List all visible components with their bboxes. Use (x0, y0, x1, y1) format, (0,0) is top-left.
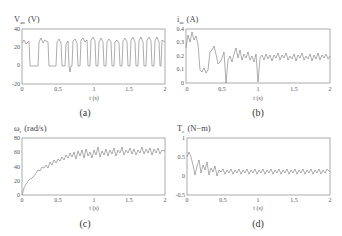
panel-d-caption: (d) (252, 218, 264, 230)
svg-text:2: 2 (329, 197, 332, 203)
panel-d-axes (187, 138, 330, 195)
panel-c-ylabel: ωr(rad/s) (14, 123, 47, 134)
panel-c: ωr(rad/s) 806040200 00.511.52 t (s) (c) (14, 123, 167, 230)
panel-a-ylabel: Van(V) (14, 14, 40, 25)
svg-text:20: 20 (14, 178, 20, 184)
panel-a: Van(V) 40200-20 00.511.52 t (s) (a) (12, 14, 167, 119)
panel-c-series (22, 147, 165, 195)
svg-text:1: 1 (93, 197, 96, 203)
svg-text:1.5: 1.5 (125, 197, 133, 203)
panel-d-ylabel: Te(N−m) (177, 123, 211, 134)
svg-text:0.5: 0.5 (178, 154, 186, 160)
svg-text:40: 40 (14, 26, 20, 32)
svg-text:2: 2 (164, 86, 167, 92)
panel-c-caption: (c) (79, 218, 90, 230)
svg-text:0.2: 0.2 (177, 53, 185, 59)
figure: Van(V) 40200-20 00.511.52 t (s) (a) ias(… (0, 0, 342, 236)
panel-d-yticks: 10.50-0.5 (176, 135, 186, 198)
panel-b-caption: (b) (252, 107, 264, 119)
panel-a-xticks: 00.511.52 (21, 86, 167, 92)
svg-text:0.5: 0.5 (54, 86, 62, 92)
svg-text:0: 0 (182, 173, 185, 179)
panel-b-xlabel: t (s) (253, 95, 263, 102)
svg-text:1: 1 (257, 86, 260, 92)
svg-text:1.5: 1.5 (290, 86, 298, 92)
svg-text:2: 2 (329, 86, 332, 92)
svg-text:1: 1 (182, 135, 185, 141)
svg-text:2: 2 (164, 197, 167, 203)
panel-b-axes (186, 29, 330, 83)
svg-text:0: 0 (21, 86, 24, 92)
panel-d-xticks: 00.511.52 (186, 197, 332, 203)
svg-text:1.5: 1.5 (290, 197, 298, 203)
panel-d-xlabel: t (s) (253, 205, 263, 212)
panel-c-yticks: 806040200 (14, 135, 20, 198)
panel-c-axes (22, 138, 165, 195)
svg-text:0.1: 0.1 (177, 66, 185, 72)
svg-text:40: 40 (14, 164, 20, 170)
panel-c-xlabel: t (s) (89, 205, 99, 212)
svg-text:1.5: 1.5 (125, 86, 133, 92)
svg-text:-20: -20 (12, 81, 20, 87)
panel-b-yticks: 0.40.30.20.10 (177, 26, 185, 86)
svg-text:20: 20 (14, 44, 20, 50)
panel-a-xlabel: t (s) (89, 95, 99, 102)
panel-d-series (187, 152, 330, 176)
panel-d: Te(N−m) 10.50-0.5 00.511.52 t (s) (d) (176, 123, 332, 230)
svg-text:0.4: 0.4 (177, 26, 185, 32)
panel-b-ylabel: ias(A) (177, 14, 199, 25)
svg-text:0.5: 0.5 (54, 197, 62, 203)
panel-b: ias(A) 0.40.30.20.10 00.511.52 t (s) (b) (177, 14, 332, 119)
panel-b-xticks: 00.511.52 (186, 86, 332, 92)
svg-text:80: 80 (14, 135, 20, 141)
svg-text:1: 1 (257, 197, 260, 203)
svg-text:0: 0 (181, 80, 184, 86)
svg-text:0.5: 0.5 (219, 197, 227, 203)
svg-text:0: 0 (186, 197, 189, 203)
svg-text:0: 0 (186, 86, 189, 92)
svg-text:0.3: 0.3 (177, 39, 185, 45)
svg-text:60: 60 (14, 149, 20, 155)
svg-text:1: 1 (93, 86, 96, 92)
panel-b-series (186, 32, 330, 83)
svg-text:0: 0 (21, 197, 24, 203)
panel-c-xticks: 00.511.52 (21, 197, 167, 203)
svg-text:0: 0 (17, 62, 20, 68)
svg-text:-0.5: -0.5 (176, 192, 186, 198)
svg-text:0.5: 0.5 (218, 86, 226, 92)
panel-a-yticks: 40200-20 (12, 26, 20, 87)
panel-a-caption: (a) (79, 107, 90, 119)
panel-a-series (22, 37, 165, 72)
